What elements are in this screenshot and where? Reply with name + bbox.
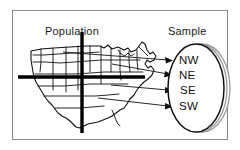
sample-label: Sample bbox=[168, 25, 207, 37]
sample-item-sw: SW bbox=[179, 100, 198, 112]
sample-item-ne: NE bbox=[179, 69, 196, 81]
sampling-diagram: Population Sample bbox=[0, 0, 240, 150]
sample-item-nw: NW bbox=[179, 54, 199, 66]
sample-item-se: SE bbox=[180, 84, 196, 96]
population-label: Population bbox=[45, 25, 99, 37]
sample-ellipse-group: NW NE SE SW bbox=[168, 44, 230, 132]
